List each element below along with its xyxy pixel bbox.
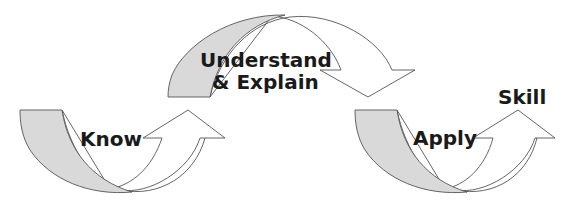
diagram-canvas (0, 0, 573, 205)
know-arrow (20, 110, 225, 193)
label-skill: Skill (498, 86, 546, 108)
apply-shade-band (355, 110, 467, 193)
label-understand-line1: Understand (200, 49, 332, 71)
label-know: Know (80, 128, 142, 150)
apply-arrow (355, 110, 555, 193)
label-apply: Apply (413, 127, 477, 149)
label-understand: Understand & Explain (200, 49, 332, 93)
label-understand-line2: & Explain (200, 71, 332, 93)
know-shade-band (20, 110, 132, 193)
